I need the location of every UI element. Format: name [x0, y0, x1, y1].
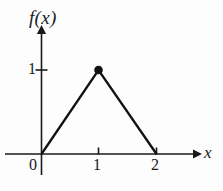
x-axis-arrowhead: [193, 149, 202, 158]
x-axis-label: x: [204, 144, 212, 161]
y-axis-label: f(x): [29, 8, 57, 27]
x-tick-label-1: 1: [93, 157, 101, 173]
y-tick-label-1: 1: [28, 61, 36, 77]
origin-tick-label: 0: [29, 157, 37, 173]
function-graph-figure: f(x) x 1 0 1 2: [0, 0, 223, 191]
peak-point-marker: [94, 66, 103, 75]
function-curve: [42, 70, 157, 154]
x-tick-label-2: 2: [151, 157, 159, 173]
